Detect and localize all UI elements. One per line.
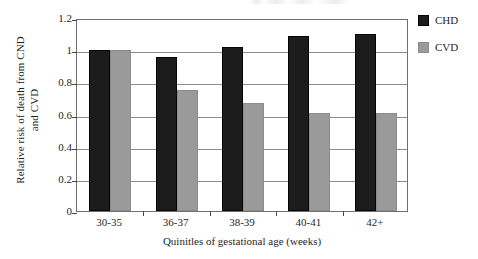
y-axis-title-text: Relative risk of death from CND and CVD <box>13 36 41 184</box>
y-tick-mark <box>72 149 77 150</box>
bar-cvd-36-37 <box>177 90 198 211</box>
y-tick-mark <box>72 20 77 21</box>
y-tick-mark <box>72 84 77 85</box>
bar-cvd-40-41 <box>309 113 330 211</box>
x-tick-label-40-41: 40-41 <box>275 216 341 229</box>
x-tick-label-38-39: 38-39 <box>209 216 275 229</box>
plot-area <box>76 19 408 212</box>
y-tick-label: 1.2 <box>44 13 72 24</box>
bar-cvd-30-35 <box>110 50 131 211</box>
legend-swatch-cvd-icon <box>418 42 429 53</box>
chart-figure: Relative risk of death from CND and CVD … <box>0 0 478 259</box>
bar-chd-40-41 <box>288 36 309 211</box>
y-tick-label: 1 <box>44 45 72 56</box>
bar-chd-30-35 <box>89 50 110 211</box>
y-axis-tick-labels: 00.20.40.60.811.2 <box>40 0 72 259</box>
legend-item-cvd[interactable]: CVD <box>418 40 476 54</box>
y-tick-mark <box>72 181 77 182</box>
x-axis-tick-labels: 30-3536-3738-3940-4142+ <box>76 216 408 232</box>
y-tick-mark <box>72 213 77 214</box>
bar-chd-38-39 <box>222 47 243 211</box>
chart-legend: CHDCVD <box>418 13 476 67</box>
y-tick-label: 0.8 <box>44 77 72 88</box>
legend-label-cvd: CVD <box>435 41 458 53</box>
y-tick-mark <box>72 52 77 53</box>
legend-item-chd[interactable]: CHD <box>418 13 476 27</box>
y-axis-title: Relative risk of death from CND and CVD <box>10 10 44 210</box>
legend-swatch-chd-icon <box>418 15 429 26</box>
x-axis-title: Quinitles of gestational age (weeks) <box>76 235 408 248</box>
x-tick-label-42plus: 42+ <box>342 216 408 229</box>
x-tick-label-36-37: 36-37 <box>142 216 208 229</box>
bar-chd-42plus <box>355 34 376 211</box>
y-tick-label: 0.2 <box>44 174 72 185</box>
y-tick-label: 0.6 <box>44 110 72 121</box>
legend-label-chd: CHD <box>435 14 458 26</box>
y-tick-mark <box>72 117 77 118</box>
bar-cvd-38-39 <box>243 103 264 211</box>
y-tick-label: 0.4 <box>44 142 72 153</box>
x-tick-label-30-35: 30-35 <box>76 216 142 229</box>
bar-chd-36-37 <box>156 57 177 211</box>
cropped-caption-remnant <box>250 0 370 4</box>
y-tick-label: 0 <box>44 206 72 217</box>
bar-cvd-42plus <box>376 113 397 211</box>
